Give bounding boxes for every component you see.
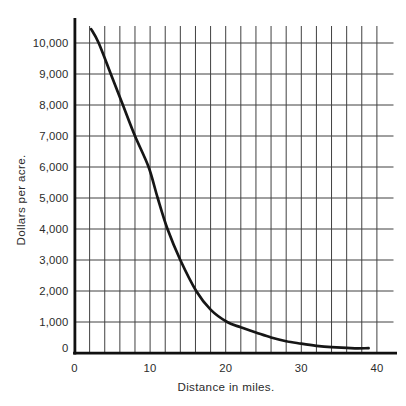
x-tick-labels: 010203040 (71, 362, 383, 374)
y-tick-10,000: 10,000 (33, 37, 69, 49)
land-value-distance-chart: 01,0002,0003,0004,0005,0006,0007,0008,00… (0, 0, 406, 406)
x-tick-0: 0 (71, 362, 77, 374)
axes (73, 18, 397, 354)
y-tick-1,000: 1,000 (39, 316, 68, 328)
y-tick-3,000: 3,000 (39, 254, 68, 266)
x-tick-40: 40 (370, 362, 383, 374)
y-tick-9,000: 9,000 (39, 68, 68, 80)
x-tick-30: 30 (295, 362, 308, 374)
y-tick-6,000: 6,000 (39, 161, 68, 173)
y-tick-8,000: 8,000 (39, 99, 68, 111)
y-tick-5,000: 5,000 (39, 192, 68, 204)
x-tick-20: 20 (219, 362, 232, 374)
figure-canvas: 01,0002,0003,0004,0005,0006,0007,0008,00… (0, 0, 406, 406)
x-tick-10: 10 (144, 362, 157, 374)
x-axis-title: Distance in miles. (177, 380, 274, 393)
y-tick-4,000: 4,000 (39, 223, 68, 235)
y-tick-labels: 01,0002,0003,0004,0005,0006,0007,0008,00… (33, 37, 69, 354)
grid-lines (75, 26, 394, 354)
y-tick-2,000: 2,000 (39, 285, 68, 297)
y-tick-0: 0 (62, 342, 68, 354)
land-value-curve (91, 29, 369, 348)
y-tick-7,000: 7,000 (39, 130, 68, 142)
y-axis-title: Dollars per acre. (14, 154, 27, 245)
